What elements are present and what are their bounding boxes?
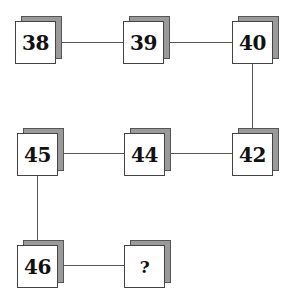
node-label: 46 <box>17 245 58 288</box>
connector-42-44 <box>171 153 232 154</box>
connector-40-42 <box>252 64 253 128</box>
node-label: 42 <box>232 133 273 176</box>
node-unknown: ? <box>124 245 165 288</box>
puzzle-diagram: 38 39 40 42 44 45 46 ? <box>0 0 300 302</box>
connector-44-45 <box>63 153 124 154</box>
connector-45-46 <box>37 176 38 240</box>
node-label: 39 <box>123 21 164 64</box>
node-46: 46 <box>17 245 58 288</box>
connector-46-q <box>63 265 124 266</box>
node-label: 38 <box>15 21 56 64</box>
node-label: 40 <box>232 21 273 64</box>
node-38: 38 <box>15 21 56 64</box>
node-label: 45 <box>17 133 58 176</box>
node-label: 44 <box>124 133 165 176</box>
node-39: 39 <box>123 21 164 64</box>
connector-38-39 <box>56 42 123 43</box>
connector-39-40 <box>170 42 232 43</box>
node-45: 45 <box>17 133 58 176</box>
node-42: 42 <box>232 133 273 176</box>
node-40: 40 <box>232 21 273 64</box>
node-44: 44 <box>124 133 165 176</box>
question-mark-label: ? <box>124 245 165 288</box>
